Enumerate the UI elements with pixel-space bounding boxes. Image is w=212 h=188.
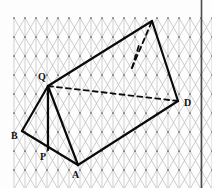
grid-dot — [134, 150, 136, 152]
grid-dot — [178, 93, 180, 95]
grid-dot — [90, 131, 92, 133]
grid-dot — [57, 169, 59, 171]
grid-dot — [79, 36, 81, 38]
grid-dot — [123, 112, 125, 114]
grid-dot — [13, 93, 15, 95]
vertex-label-b: B — [11, 130, 18, 141]
grid-dot — [68, 17, 70, 19]
grid-dot — [35, 169, 37, 171]
grid-dot — [57, 74, 59, 76]
grid-dot — [79, 17, 81, 19]
grid-dot — [123, 131, 125, 133]
grid-dot — [35, 131, 37, 133]
grid-dot — [156, 131, 158, 133]
figure-container: QBPAD — [0, 0, 212, 188]
grid-dot — [189, 169, 191, 171]
grid-dot — [145, 36, 147, 38]
grid-dot — [24, 169, 26, 171]
grid-dot — [79, 150, 81, 152]
grid-dot — [35, 17, 37, 19]
grid-dot — [57, 93, 59, 95]
grid-dot — [90, 112, 92, 114]
grid-dot — [68, 112, 70, 114]
grid-dot — [189, 131, 191, 133]
grid-dot — [178, 112, 180, 114]
grid-dot — [145, 112, 147, 114]
grid-dot — [112, 131, 114, 133]
grid-dot — [68, 150, 70, 152]
grid-dot — [101, 36, 103, 38]
grid-dot — [46, 55, 48, 57]
grid-dot — [112, 150, 114, 152]
grid-dot — [46, 169, 48, 171]
grid-dot — [189, 55, 191, 57]
grid-dot — [46, 17, 48, 19]
grid-dot — [46, 36, 48, 38]
grid-dot — [178, 150, 180, 152]
grid-dot — [57, 131, 59, 133]
grid-dot — [101, 74, 103, 76]
grid-dot — [156, 17, 158, 19]
isometric-prism-diagram: QBPAD — [0, 0, 212, 188]
grid-dot — [156, 74, 158, 76]
grid-dot — [57, 17, 59, 19]
grid-dot — [189, 36, 191, 38]
grid-dot — [90, 36, 92, 38]
grid-dot — [134, 36, 136, 38]
grid-dot — [145, 17, 147, 19]
grid-dot — [13, 150, 15, 152]
grid-dot — [167, 17, 169, 19]
grid-dot — [13, 74, 15, 76]
grid-dot — [68, 93, 70, 95]
grid-dot — [101, 112, 103, 114]
grid-dot — [24, 93, 26, 95]
grid-dot — [57, 36, 59, 38]
grid-dot — [178, 169, 180, 171]
grid-dot — [35, 74, 37, 76]
grid-dot — [112, 169, 114, 171]
grid-dot — [90, 150, 92, 152]
grid-dot — [178, 17, 180, 19]
grid-dot — [134, 17, 136, 19]
grid-dot — [79, 74, 81, 76]
grid-dot — [35, 93, 37, 95]
grid-dot — [101, 131, 103, 133]
grid-dot — [178, 36, 180, 38]
grid-dot — [46, 74, 48, 76]
grid-dot — [79, 112, 81, 114]
grid-dot — [68, 36, 70, 38]
grid-dot — [79, 131, 81, 133]
grid-dot — [112, 36, 114, 38]
grid-dot — [13, 112, 15, 114]
vertex-label-p: P — [40, 151, 46, 162]
vertex-label-a: A — [72, 169, 80, 180]
grid-dot — [145, 169, 147, 171]
grid-dot — [167, 169, 169, 171]
grid-dot — [189, 150, 191, 152]
grid-dot — [90, 17, 92, 19]
grid-dot — [35, 150, 37, 152]
grid-dot — [134, 93, 136, 95]
grid-dot — [189, 74, 191, 76]
grid-dot — [123, 74, 125, 76]
grid-dot — [101, 169, 103, 171]
grid-dot — [24, 150, 26, 152]
grid-dot — [24, 55, 26, 57]
grid-dot — [134, 131, 136, 133]
grid-dot — [189, 17, 191, 19]
grid-dot — [24, 112, 26, 114]
grid-dot — [123, 150, 125, 152]
grid-dot — [134, 74, 136, 76]
grid-dot — [13, 55, 15, 57]
grid-dot — [79, 55, 81, 57]
grid-dot — [101, 55, 103, 57]
grid-dot — [178, 55, 180, 57]
grid-dot — [167, 112, 169, 114]
grid-dot — [167, 150, 169, 152]
grid-dot — [90, 93, 92, 95]
grid-dot — [13, 17, 15, 19]
grid-dot — [101, 93, 103, 95]
grid-dot — [156, 169, 158, 171]
vertex-label-q: Q — [38, 71, 46, 82]
grid-dot — [68, 131, 70, 133]
